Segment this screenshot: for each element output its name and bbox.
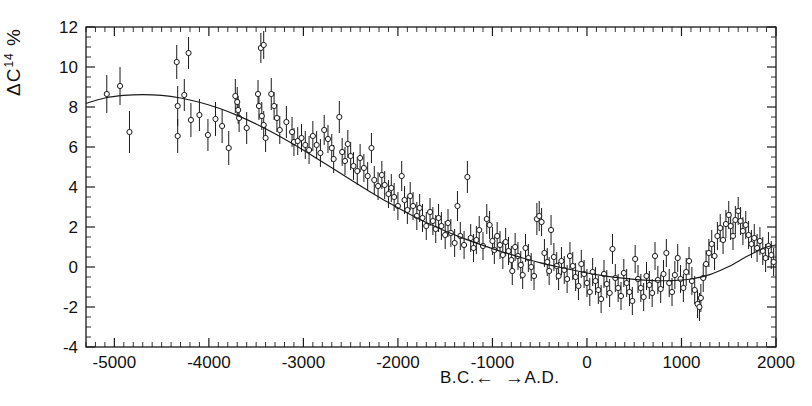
data-point xyxy=(289,129,294,134)
data-point xyxy=(220,123,225,128)
data-point xyxy=(733,217,738,222)
data-point xyxy=(284,119,289,124)
data-point xyxy=(331,156,336,161)
data-point xyxy=(256,103,261,108)
data-point xyxy=(427,209,432,214)
data-point xyxy=(610,246,615,251)
data-point xyxy=(484,216,489,221)
y-tick-label: -2 xyxy=(63,298,78,317)
data-point xyxy=(510,268,515,273)
data-point xyxy=(624,280,629,285)
data-point xyxy=(692,287,697,292)
data-point xyxy=(436,215,441,220)
data-point xyxy=(259,113,264,118)
data-point xyxy=(402,197,407,202)
y-tick-label: -4 xyxy=(63,338,78,357)
y-axis-label: ΔC14 % xyxy=(2,0,25,96)
data-point xyxy=(596,287,601,292)
data-point xyxy=(186,50,191,55)
data-point xyxy=(509,257,514,262)
data-point xyxy=(641,294,646,299)
data-point xyxy=(559,258,564,263)
data-point xyxy=(299,135,304,140)
data-point xyxy=(355,168,360,173)
data-point xyxy=(706,250,711,255)
data-point xyxy=(342,158,347,163)
data-point xyxy=(399,173,404,178)
data-point xyxy=(647,282,652,287)
data-points-layer xyxy=(104,42,776,309)
data-point xyxy=(658,286,663,291)
data-point xyxy=(604,281,609,286)
data-point xyxy=(523,245,528,250)
data-point xyxy=(340,149,345,154)
data-point xyxy=(361,165,366,170)
data-point xyxy=(769,252,774,257)
data-point xyxy=(607,290,612,295)
data-point xyxy=(726,212,731,217)
data-point xyxy=(213,116,218,121)
data-point xyxy=(655,277,660,282)
data-point xyxy=(369,145,374,150)
data-point xyxy=(715,233,720,238)
data-point xyxy=(573,274,578,279)
data-point xyxy=(487,222,492,227)
data-point xyxy=(417,205,422,210)
x-tick-label: 1000 xyxy=(663,353,701,372)
data-point xyxy=(226,145,231,150)
figure-container: -5000-4000-3000-2000-1000010002000 -4-20… xyxy=(0,0,812,406)
data-point xyxy=(306,147,311,152)
data-point xyxy=(452,240,457,245)
data-point xyxy=(255,91,260,96)
data-point xyxy=(495,233,500,238)
data-point xyxy=(712,253,717,258)
data-point xyxy=(325,136,330,141)
data-point xyxy=(518,262,523,267)
data-point xyxy=(424,223,429,228)
data-point xyxy=(672,272,677,277)
data-point xyxy=(117,83,122,88)
data-point xyxy=(182,92,187,97)
data-point xyxy=(661,271,666,276)
x-tick-label: 2000 xyxy=(757,353,795,372)
data-point xyxy=(443,232,448,237)
data-point xyxy=(684,269,689,274)
data-point xyxy=(709,241,714,246)
data-point xyxy=(174,59,179,64)
data-point xyxy=(539,219,544,224)
data-point xyxy=(542,250,547,255)
data-point xyxy=(681,285,686,290)
data-point xyxy=(650,290,655,295)
data-point xyxy=(675,255,680,260)
data-point xyxy=(455,203,460,208)
data-point xyxy=(235,99,240,104)
data-point xyxy=(205,132,210,137)
arrow-left-icon: ← xyxy=(475,367,495,388)
data-point xyxy=(233,93,238,98)
data-point xyxy=(686,258,691,263)
data-point xyxy=(749,241,754,246)
x-axis-label-ad: A.D. xyxy=(525,368,560,387)
data-point xyxy=(703,261,708,266)
data-point xyxy=(197,112,202,117)
y-tick-label: 4 xyxy=(69,178,78,197)
data-point xyxy=(358,155,363,160)
data-point xyxy=(477,227,482,232)
x-tick-label: -3000 xyxy=(282,353,325,372)
data-point xyxy=(593,278,598,283)
data-point xyxy=(445,220,450,225)
data-point xyxy=(513,244,518,249)
data-point xyxy=(718,225,723,230)
data-point xyxy=(537,213,542,218)
data-point xyxy=(382,182,387,187)
data-point xyxy=(547,268,552,273)
data-point xyxy=(348,153,353,158)
data-point xyxy=(520,272,525,277)
y-axis-label-percent: % xyxy=(3,28,24,46)
data-point xyxy=(127,129,132,134)
data-point xyxy=(236,107,241,112)
data-point xyxy=(551,254,556,259)
y-axis-label-superscript: 14 xyxy=(2,52,16,67)
data-point xyxy=(757,238,762,243)
data-point xyxy=(743,222,748,227)
